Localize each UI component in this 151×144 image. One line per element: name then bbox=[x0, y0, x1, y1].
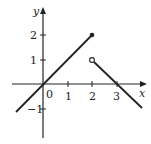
segment-1 bbox=[16, 35, 92, 112]
tick-label-x2: 2 bbox=[89, 90, 96, 103]
open-endpoint bbox=[90, 58, 95, 63]
tick-label-x1: 1 bbox=[65, 90, 72, 103]
tick-label-yneg1: −1 bbox=[27, 103, 43, 116]
tick-label-y2: 2 bbox=[30, 29, 37, 42]
label-x-axis: x bbox=[139, 87, 146, 100]
y-axis-arrow-icon bbox=[40, 7, 46, 14]
tick-label-x3: 3 bbox=[113, 90, 120, 103]
closed-endpoint bbox=[90, 33, 95, 38]
tick-label-y1: 1 bbox=[30, 54, 37, 67]
graph: y x 0 1 2 3 2 1 −1 bbox=[0, 0, 151, 144]
tick-label-x0: 0 bbox=[46, 88, 53, 101]
label-y-axis: y bbox=[32, 5, 40, 18]
